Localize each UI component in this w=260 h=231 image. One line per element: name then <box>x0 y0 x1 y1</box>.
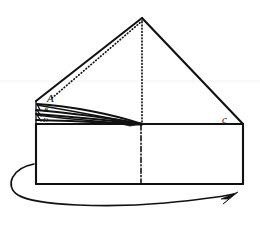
vertex-label-a: A <box>46 92 54 104</box>
vertex-label-d: D <box>42 116 48 124</box>
triangle-left-edge <box>36 18 142 101</box>
triangle-right-edge <box>142 18 243 124</box>
vertex-label-b: B <box>44 106 49 114</box>
folding-diagram: A B D c <box>0 0 260 231</box>
rotation-arrow-head <box>221 192 238 204</box>
figure-canvas: A B D c <box>0 0 260 231</box>
hidden-diagonal-edge <box>52 21 142 98</box>
vertex-label-c: c <box>222 113 227 125</box>
